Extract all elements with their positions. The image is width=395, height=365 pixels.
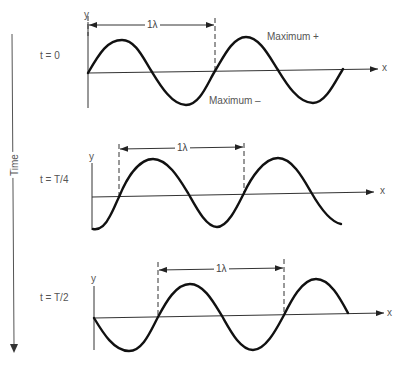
maximum-minus-label: Maximum – — [209, 96, 261, 106]
x-axis-label: x — [382, 63, 387, 73]
x-axis — [92, 192, 374, 197]
y-axis-label: y — [91, 274, 96, 284]
y-axis-label: y — [84, 10, 89, 20]
time-label-tT2: t = T/2 — [40, 293, 68, 303]
wavelength-label: 1λ — [145, 20, 160, 30]
x-axis — [94, 313, 384, 318]
x-axis-label: x — [387, 308, 392, 318]
x-axis — [88, 69, 378, 73]
wavelength-label: 1λ — [214, 264, 229, 274]
x-axis-label: x — [380, 186, 385, 196]
y-axis-label: y — [89, 152, 94, 162]
time-axis-label: Time — [10, 152, 20, 178]
wavelength-label: 1λ — [175, 143, 190, 153]
time-axis — [10, 34, 18, 353]
maximum-plus-label: Maximum + — [267, 32, 319, 42]
panel-tT4 — [92, 143, 374, 230]
wave-curve — [94, 279, 348, 351]
time-arrow-icon — [10, 344, 18, 353]
panel-tT2 — [94, 259, 384, 351]
time-label-tT4: t = T/4 — [40, 175, 68, 185]
time-label-t0: t = 0 — [40, 51, 60, 61]
